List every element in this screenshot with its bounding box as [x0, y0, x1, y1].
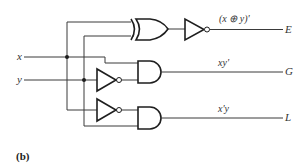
- logic-circuit-diagram: [0, 0, 298, 163]
- x-junction-dot: [65, 55, 69, 59]
- not-gate-e: [185, 19, 210, 40]
- output-e-label: E: [285, 24, 292, 35]
- x-bus-wire: [67, 22, 133, 110]
- y-junction-dot: [82, 78, 86, 82]
- xor-gate: [131, 19, 168, 40]
- expression-e: (x ⊕ y)': [219, 14, 250, 24]
- not-gate-x: [97, 99, 122, 121]
- and-gate-g: [138, 61, 161, 83]
- and-gate-l: [138, 107, 161, 129]
- x-to-and-g-wire: [105, 57, 138, 63]
- input-x-label: x: [17, 51, 22, 62]
- expression-g: xy': [218, 58, 229, 68]
- expression-l: x'y: [218, 104, 229, 114]
- figure-caption: (b): [16, 151, 29, 162]
- input-y-label: y: [17, 74, 22, 85]
- output-l-label: L: [285, 112, 291, 123]
- output-g-label: G: [285, 66, 293, 77]
- not-gate-y: [97, 69, 122, 91]
